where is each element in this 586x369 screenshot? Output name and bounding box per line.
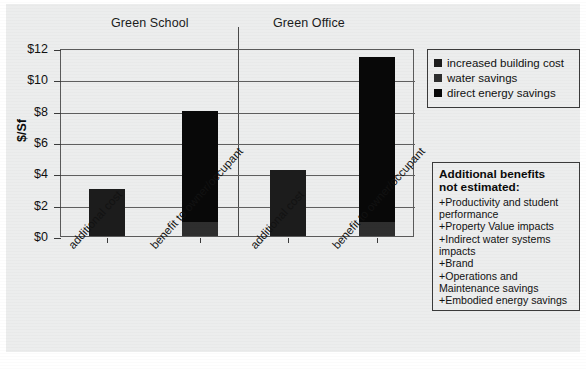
note-item: +Indirect water systems impacts (439, 233, 575, 258)
y-tick-mark (54, 238, 61, 239)
y-tick-mark (54, 207, 61, 208)
note-item: +Productivity and student performance (439, 196, 575, 221)
y-tick-mark (54, 81, 61, 82)
x-tick-mark (200, 238, 201, 243)
legend-label: water savings (447, 72, 517, 84)
cost-swatch-icon (434, 59, 442, 67)
y-tick-label: $8 (4, 105, 48, 119)
y-tick-label: $4 (4, 167, 48, 181)
note-item: +Operations and Maintenance savings (439, 270, 575, 295)
energy-swatch-icon (434, 89, 442, 97)
legend-label: increased building cost (447, 57, 564, 69)
bar-segment (182, 222, 218, 236)
legend-item-water-savings: water savings (434, 72, 574, 84)
x-tick-mark (377, 238, 378, 243)
y-tick-label: $6 (4, 136, 48, 150)
legend-item-direct-energy-savings: direct energy savings (434, 87, 574, 99)
y-tick-mark (54, 113, 61, 114)
note-heading-line-2: not estimated: (439, 181, 575, 194)
bar-segment (359, 222, 395, 236)
y-tick-label: $10 (4, 73, 48, 87)
note-item-list: +Productivity and student performance+Pr… (439, 196, 575, 307)
additional-benefits-note-box: Additional benefits not estimated: +Prod… (432, 162, 580, 311)
chart-legend: increased building cost water savings di… (427, 49, 580, 108)
x-tick-mark (288, 238, 289, 243)
note-item: +Embodied energy savings (439, 294, 575, 306)
y-tick-mark (54, 50, 61, 51)
y-tick-mark (54, 175, 61, 176)
y-tick-label: $0 (4, 230, 48, 244)
group-title-green-school: Green School (111, 16, 189, 30)
y-tick-mark (54, 144, 61, 145)
legend-item-increased-building-cost: increased building cost (434, 57, 574, 69)
note-item: +Brand (439, 257, 575, 269)
legend-label: direct energy savings (447, 87, 556, 99)
y-tick-label: $2 (4, 199, 48, 213)
note-item: +Property Value impacts (439, 220, 575, 232)
water-swatch-icon (434, 74, 442, 82)
x-tick-mark (107, 238, 108, 243)
y-tick-label: $12 (4, 42, 48, 56)
note-heading-line-1: Additional benefits (439, 168, 575, 181)
group-title-green-office: Green Office (273, 16, 345, 30)
